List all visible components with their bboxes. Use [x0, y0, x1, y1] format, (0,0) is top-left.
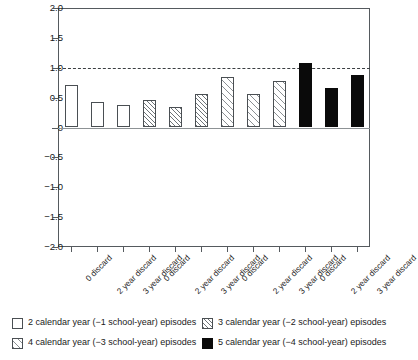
- x-axis-tick-mark: [305, 247, 306, 252]
- legend-item[interactable]: 2 calendar year (−1 school-year) episode…: [12, 318, 202, 329]
- legend-item[interactable]: 4 calendar year (−3 school-year) episode…: [12, 338, 202, 349]
- x-axis-tick-mark: [331, 247, 332, 252]
- bar: [65, 85, 78, 127]
- x-axis-tick-mark: [149, 247, 150, 252]
- legend-item[interactable]: 3 calendar year (−2 school-year) episode…: [202, 318, 392, 329]
- x-axis-tick-mark: [279, 247, 280, 252]
- x-axis-tick-mark: [123, 247, 124, 252]
- bar: [247, 94, 260, 127]
- legend-swatch-empty-icon: [12, 318, 23, 329]
- x-axis-tick-mark: [201, 247, 202, 252]
- bar: [221, 77, 234, 128]
- legend-label: 2 calendar year (−1 school-year) episode…: [28, 318, 196, 328]
- bar: [117, 105, 130, 128]
- bar: [143, 100, 156, 127]
- bar: [273, 81, 286, 127]
- x-axis-tick-mark: [253, 247, 254, 252]
- legend-swatch-hatch-sparse-icon: [12, 338, 23, 349]
- x-axis-tick-mark: [71, 247, 72, 252]
- legend-item[interactable]: 5 calendar year (−4 school-year) episode…: [202, 338, 392, 349]
- bar: [351, 75, 364, 128]
- bar: [169, 107, 182, 127]
- bar: [91, 102, 104, 128]
- legend-label: 4 calendar year (−3 school-year) episode…: [28, 338, 196, 348]
- x-axis-tick-mark: [357, 247, 358, 252]
- legend-label: 5 calendar year (−4 school-year) episode…: [218, 338, 386, 348]
- x-axis-tick-mark: [97, 247, 98, 252]
- chart-legend: 2 calendar year (−1 school-year) episode…: [12, 313, 392, 353]
- legend-swatch-solid-icon: [202, 338, 213, 349]
- x-axis-tick-mark: [227, 247, 228, 252]
- bar: [325, 88, 338, 127]
- legend-label: 3 calendar year (−2 school-year) episode…: [218, 318, 386, 328]
- x-axis-tick-mark: [175, 247, 176, 252]
- bar: [195, 94, 208, 127]
- legend-swatch-hatch-dense-icon: [202, 318, 213, 329]
- bar: [299, 63, 312, 128]
